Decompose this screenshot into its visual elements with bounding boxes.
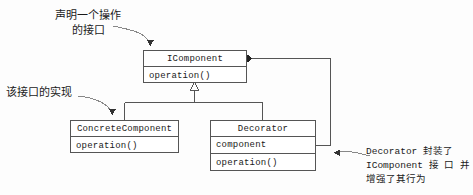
generalization-connector — [125, 90, 263, 120]
class-operation-concrete-component-operation: operation() — [71, 137, 178, 154]
callout-arrowhead-implements-interface — [109, 109, 116, 116]
callout-arrowhead-decorator-wraps — [334, 149, 341, 156]
uml-class-diagram: IComponent operation() ConcreteComponent… — [0, 0, 473, 195]
callout-leader-decorator-wraps — [336, 151, 370, 156]
annotation-implements-interface-line-1: 该接口的实现 — [6, 85, 86, 100]
annotation-declare-interface: 声明一个操作 的接口 — [33, 8, 143, 38]
class-name-icomponent: IComponent — [144, 51, 246, 67]
class-box-decorator[interactable]: Decorator component operation() — [210, 120, 316, 171]
callout-arrowhead-declare-interface — [147, 40, 154, 47]
class-name-concrete-component: ConcreteComponent — [71, 121, 178, 137]
annotation-decorator-wraps: Decorator 封装了 IComponent 接 口 并 增强了其行为 — [366, 145, 471, 187]
class-name-decorator: Decorator — [211, 121, 315, 137]
annotation-declare-interface-line-1: 声明一个操作 — [33, 8, 143, 23]
class-box-concrete-component[interactable]: ConcreteComponent operation() — [70, 120, 179, 153]
annotation-decorator-wraps-line-3: 增强了其行为 — [366, 173, 471, 187]
class-attribute-decorator-component: component — [211, 137, 315, 154]
class-operation-icomponent-operation: operation() — [144, 67, 246, 84]
class-operation-decorator-operation: operation() — [211, 154, 315, 171]
annotation-decorator-wraps-line-1: Decorator 封装了 — [366, 145, 471, 159]
annotation-decorator-wraps-line-2: IComponent 接 口 并 — [366, 159, 471, 173]
annotation-implements-interface: 该接口的实现 — [6, 85, 86, 100]
class-box-icomponent[interactable]: IComponent operation() — [143, 50, 247, 83]
annotation-declare-interface-line-2: 的接口 — [33, 23, 143, 38]
